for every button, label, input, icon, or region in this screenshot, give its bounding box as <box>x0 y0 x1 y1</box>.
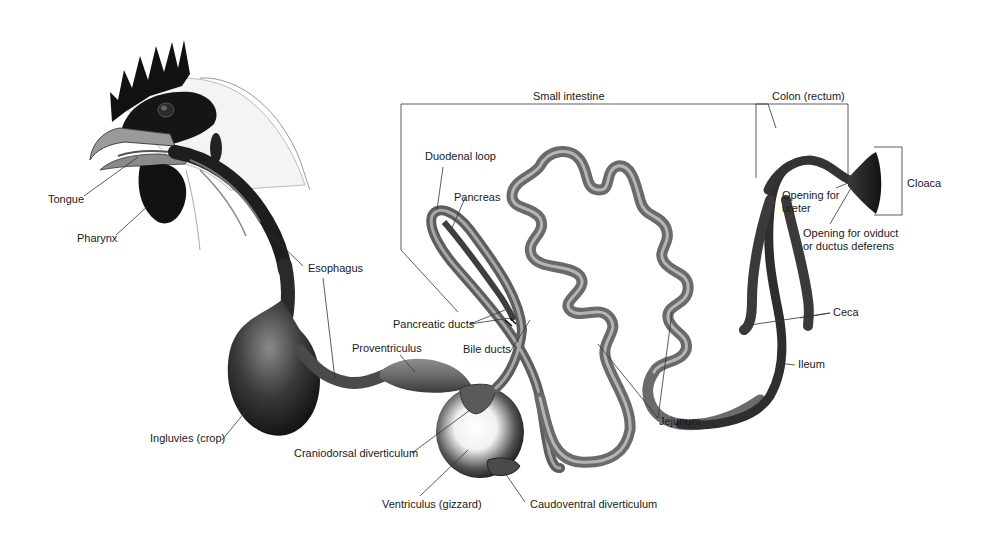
label-craniodorsal-diverticulum: Craniodorsal diverticulum <box>294 447 418 460</box>
label-ventriculus-gizzard: Ventriculus (gizzard) <box>382 498 482 511</box>
label-cloaca: Cloaca <box>907 177 941 190</box>
label-pharynx: Pharynx <box>77 232 117 245</box>
hindgut <box>680 152 881 425</box>
jejunum <box>512 151 760 462</box>
label-duodenal-loop: Duodenal loop <box>425 150 496 163</box>
label-colon-rectum: Colon (rectum) <box>772 90 845 103</box>
illustration <box>0 0 982 547</box>
proventriculus-organ <box>380 359 472 393</box>
label-ingluvies-crop: Ingluvies (crop) <box>150 432 225 445</box>
label-tongue: Tongue <box>48 193 84 206</box>
label-small-intestine: Small intestine <box>533 90 605 103</box>
label-esophagus: Esophagus <box>308 262 363 275</box>
digestive-tract-diagram: Tongue Pharynx Esophagus Ingluvies (crop… <box>0 0 982 547</box>
label-bile-ducts: Bile ducts <box>463 343 511 356</box>
label-pancreas: Pancreas <box>454 191 500 204</box>
label-ileum: Ileum <box>798 358 825 371</box>
label-opening-oviduct: Opening for oviduct or ductus deferens <box>803 227 898 253</box>
chicken-head <box>90 40 310 270</box>
label-caudoventral-diverticulum: Caudoventral diverticulum <box>530 498 657 511</box>
gizzard <box>436 384 524 478</box>
label-ceca: Ceca <box>833 306 859 319</box>
label-proventriculus: Proventriculus <box>352 342 422 355</box>
label-jejunum: Jejunum <box>659 415 701 428</box>
label-pancreatic-ducts: Pancreatic ducts <box>393 318 474 331</box>
label-opening-ureter: Opening for ureter <box>782 189 839 215</box>
